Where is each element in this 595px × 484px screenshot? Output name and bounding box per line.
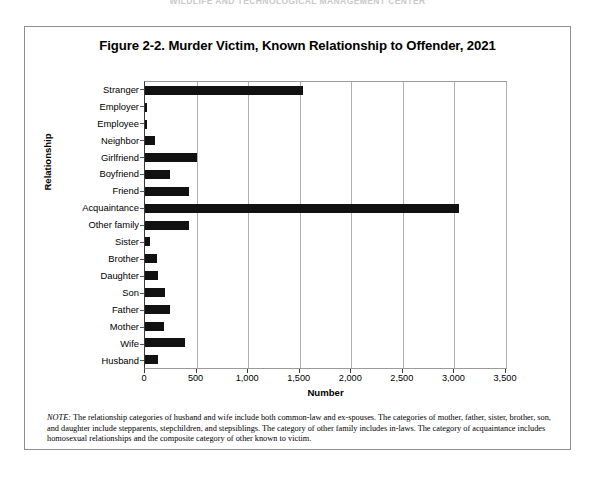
y-axis-tick-label: Other family: [59, 217, 144, 234]
bar: [145, 254, 157, 263]
note-text: The relationship categories of husband a…: [47, 413, 551, 443]
bar-row: [145, 233, 506, 250]
bar: [145, 120, 147, 129]
bar-row: [145, 267, 506, 284]
page-running-header: WILDLIFE AND TECHNOLOGICAL MANAGEMENT CE…: [0, 0, 595, 6]
bar: [145, 170, 170, 179]
bar-row: [145, 318, 506, 335]
bar: [145, 322, 164, 331]
bar-row: [145, 132, 506, 149]
x-axis-tick-label: 1,500: [287, 373, 310, 383]
x-axis-label: Number: [144, 387, 507, 398]
figure-container: Figure 2-2. Murder Victim, Known Relatio…: [24, 26, 571, 450]
plot-frame: [144, 81, 507, 369]
y-axis-tick-label: Father: [59, 301, 144, 318]
y-axis-tick-label: Son: [59, 284, 144, 301]
bar-row: [145, 250, 506, 267]
bar-row: [145, 284, 506, 301]
bar-row: [145, 82, 506, 99]
y-axis-tick-label: Neighbor: [59, 132, 144, 149]
y-axis-tick-label: Employee: [59, 115, 144, 132]
y-axis-tick-labels: StrangerEmployerEmployeeNeighborGirlfrie…: [59, 81, 144, 369]
bar: [145, 221, 189, 230]
bar: [145, 86, 303, 95]
y-axis-tick-label: Sister: [59, 233, 144, 250]
y-axis-tick-label: Mother: [59, 318, 144, 335]
bar: [145, 237, 150, 246]
bar-row: [145, 334, 506, 351]
bar: [145, 338, 185, 347]
x-axis-tick-label: 500: [188, 373, 203, 383]
y-axis-tick-label: Stranger: [59, 81, 144, 98]
x-axis-tick-label: 0: [141, 373, 146, 383]
bar-row: [145, 166, 506, 183]
bar: [145, 103, 147, 112]
gridline: [506, 82, 507, 368]
bar: [145, 355, 158, 364]
bar-row: [145, 99, 506, 116]
bar: [145, 204, 459, 213]
x-axis-ticks: 05001,0001,5002,0002,5003,0003,500: [144, 369, 507, 383]
y-axis-tick-label: Daughter: [59, 267, 144, 284]
bar-row: [145, 301, 506, 318]
y-axis-tick-label: Husband: [59, 352, 144, 369]
bar-series: [145, 82, 506, 368]
bar: [145, 136, 155, 145]
bar: [145, 153, 197, 162]
note-label: NOTE:: [47, 413, 71, 422]
y-axis-tick-label: Girlfriend: [59, 149, 144, 166]
bar: [145, 288, 165, 297]
x-axis-tick-label: 1,000: [236, 373, 259, 383]
bar-row: [145, 351, 506, 368]
x-axis-tick-label: 3,500: [494, 373, 517, 383]
x-axis-tick-label: 2,000: [339, 373, 362, 383]
bar-row: [145, 116, 506, 133]
y-axis-tick-label: Boyfriend: [59, 166, 144, 183]
bar: [145, 187, 189, 196]
bar-row: [145, 183, 506, 200]
chart-area: Relationship StrangerEmployerEmployeeNei…: [25, 77, 570, 407]
bar: [145, 305, 170, 314]
figure-title: Figure 2-2. Murder Victim, Known Relatio…: [69, 37, 526, 54]
bar-row: [145, 217, 506, 234]
bar-row: [145, 200, 506, 217]
bar: [145, 271, 158, 280]
bar-row: [145, 149, 506, 166]
y-axis-tick-label: Employer: [59, 98, 144, 115]
figure-note: NOTE: The relationship categories of hus…: [47, 413, 555, 445]
y-axis-label: Relationship: [42, 175, 53, 191]
x-axis-tick-label: 2,500: [390, 373, 413, 383]
x-axis-tick-label: 3,000: [442, 373, 465, 383]
y-axis-tick-label: Wife: [59, 335, 144, 352]
y-axis-tick-label: Friend: [59, 183, 144, 200]
y-axis-tick-label: Acquaintance: [59, 200, 144, 217]
y-axis-tick-label: Brother: [59, 250, 144, 267]
